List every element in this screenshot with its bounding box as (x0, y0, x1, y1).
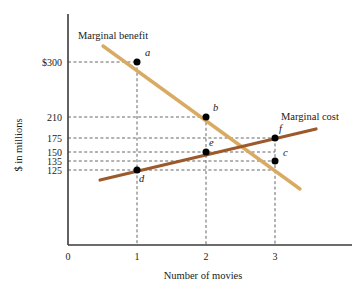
x-tick-label-1: 1 (135, 251, 140, 262)
point-f-marker (272, 135, 279, 142)
point-b-label: b (213, 102, 218, 113)
point-e-marker (203, 149, 210, 156)
x-tick-label-3: 3 (273, 251, 278, 262)
point-c-label: c (283, 147, 288, 158)
y-axis-title: $ in millions (13, 118, 24, 171)
marginal-analysis-chart: a b c d e f Marginal benefit Marginal co… (0, 0, 359, 291)
point-d-label: d (139, 173, 145, 184)
y-tick-label-300: $300 (42, 57, 62, 68)
y-tick-label-175: 175 (47, 133, 62, 144)
y-tick-label-210: 210 (47, 112, 62, 123)
point-e-label: e (209, 137, 214, 148)
point-c-marker (272, 158, 279, 165)
x-axis-title: Number of movies (164, 270, 243, 281)
chart-background (0, 0, 359, 291)
marginal-cost-label: Marginal cost (281, 111, 339, 122)
chart-canvas: a b c d e f Marginal benefit Marginal co… (0, 0, 359, 291)
y-tick-label-125: 125 (47, 165, 62, 176)
point-a-marker (134, 59, 141, 66)
point-a-label: a (145, 47, 150, 58)
point-b-marker (203, 114, 210, 121)
x-tick-label-2: 2 (204, 251, 209, 262)
marginal-benefit-label: Marginal benefit (78, 30, 148, 41)
x-tick-label-0: 0 (66, 251, 71, 262)
